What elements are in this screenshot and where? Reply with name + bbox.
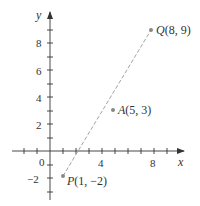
- x-axis-label: x: [177, 155, 184, 169]
- point-a-coords: (5, 3): [125, 103, 151, 117]
- point-q-label: Q(8, 9): [156, 23, 191, 37]
- point-q-coords: (8, 9): [165, 23, 191, 37]
- y-tick-label-8: 8: [36, 37, 42, 49]
- point-p-label: P(1, −2): [66, 174, 107, 188]
- y-tick-label-4: 4: [36, 92, 42, 104]
- x-axis: [12, 148, 184, 154]
- point-q: [149, 28, 153, 32]
- y-tick-label-6: 6: [36, 65, 42, 77]
- x-tick-label-8: 8: [150, 157, 156, 169]
- point-p-coords: (1, −2): [74, 174, 107, 188]
- y-tick-label-neg2: −2: [27, 173, 39, 185]
- point-a: [111, 108, 115, 112]
- y-axis: [47, 12, 53, 200]
- point-q-letter: Q: [156, 23, 165, 37]
- point-a-label: A(5, 3): [117, 103, 151, 117]
- x-tick-label-4: 4: [98, 157, 104, 169]
- point-p: [61, 174, 65, 178]
- y-tick-label-2: 2: [36, 119, 42, 131]
- origin-label: 0: [39, 156, 45, 168]
- coordinate-plane: y x 0 4 8 8 6 4 2 −2 P(1, −2) A(5, 3) Q(…: [0, 0, 200, 206]
- y-axis-label: y: [35, 8, 42, 22]
